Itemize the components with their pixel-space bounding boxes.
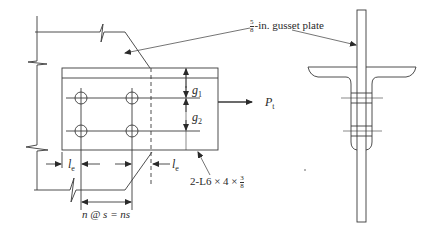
force-label: Pt	[265, 96, 275, 111]
le-left-label: le	[68, 158, 75, 173]
connection-drawing	[0, 0, 438, 231]
g1-label: g1	[192, 84, 202, 99]
le-right-label: le	[172, 158, 179, 173]
gusset-plate-elevation	[26, 16, 152, 202]
end-section-view	[308, 10, 416, 222]
spacing-label: n @ s = ns	[82, 209, 130, 220]
angle-label: 2-L6 × 4 × 38	[190, 175, 245, 190]
g2-label: g2	[192, 111, 202, 126]
gusset-plate-label: 58-in. gusset plate	[250, 19, 324, 34]
